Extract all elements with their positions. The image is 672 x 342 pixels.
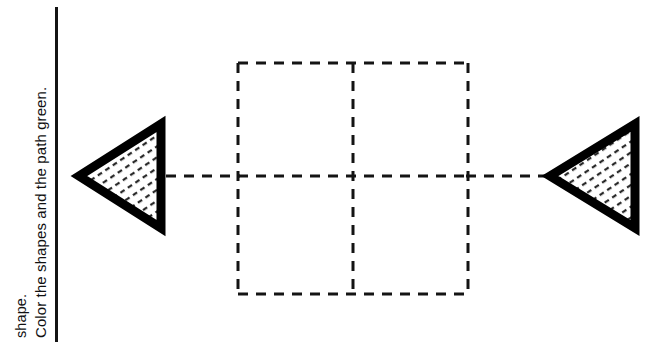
worksheet-artwork <box>0 0 672 342</box>
dashed-square-grid <box>238 63 468 294</box>
right-triangle-shape <box>550 124 635 228</box>
right-triangle-fill <box>550 124 635 228</box>
left-triangle-shape <box>79 124 161 228</box>
left-triangle-fill <box>79 124 161 228</box>
worksheet-page: shape. Color the shapes and the path gre… <box>0 0 672 342</box>
